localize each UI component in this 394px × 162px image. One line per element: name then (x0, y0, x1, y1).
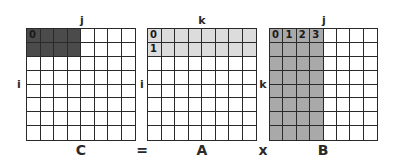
matrix-c-side-axis-label: i (17, 78, 21, 91)
matrix-cell (68, 29, 82, 43)
matrix-cell (324, 71, 337, 85)
matrix-cell (81, 126, 95, 140)
matrix-cell (216, 43, 230, 57)
matrix-cell (229, 29, 243, 43)
matrix-cell (324, 29, 337, 43)
matrix-cell (337, 57, 350, 71)
matrix-cell: 3 (310, 29, 323, 43)
matrix-cell (297, 85, 310, 99)
matrix-cell (122, 85, 136, 99)
matrix-cell (148, 126, 162, 140)
matrix-cell (122, 98, 136, 112)
matrix-cell (68, 126, 82, 140)
matrix-cell (337, 29, 350, 43)
matrix-cell (108, 29, 122, 43)
matrix-cell (54, 29, 68, 43)
matrix-cell (229, 98, 243, 112)
matrix-cell (216, 29, 230, 43)
matrix-cell (41, 71, 55, 85)
matrix-cell (202, 71, 216, 85)
matrix-cell (283, 71, 296, 85)
matrix-cell (243, 85, 257, 99)
matrix-cell (81, 43, 95, 57)
matrix-b-top-axis-label: j (322, 14, 326, 27)
matrix-c-name: C (76, 142, 86, 158)
matrix-cell (202, 57, 216, 71)
matrix-cell (95, 43, 109, 57)
matrix-cell (324, 98, 337, 112)
matrix-cell: 1 (148, 43, 162, 57)
matrix-cell (175, 112, 189, 126)
matrix-cell (81, 57, 95, 71)
matrix-cell (202, 112, 216, 126)
matrix-cell (216, 85, 230, 99)
matrix-cell (324, 57, 337, 71)
matrix-cell (122, 29, 136, 43)
matrix-cell (189, 57, 203, 71)
matrix-cell (81, 98, 95, 112)
matrix-cell (108, 98, 122, 112)
matrix-cell (310, 98, 323, 112)
matrix-cell (175, 98, 189, 112)
matrix-cell (270, 126, 283, 140)
matrix-cell (108, 112, 122, 126)
matrix-cell (229, 71, 243, 85)
matrix-cell (95, 85, 109, 99)
matrix-cell (95, 71, 109, 85)
matrix-cell (189, 43, 203, 57)
matrix-cell (297, 112, 310, 126)
matrix-cell (108, 43, 122, 57)
matrix-cell (189, 85, 203, 99)
matrix-cell (54, 43, 68, 57)
matrix-cell: 2 (297, 29, 310, 43)
matrix-cell (41, 112, 55, 126)
matrix-cell (324, 43, 337, 57)
matrix-cell: 0 (148, 29, 162, 43)
matrix-cell (350, 43, 363, 57)
matrix-cell (122, 71, 136, 85)
matrix-cell (337, 71, 350, 85)
matrix-cell (41, 85, 55, 99)
matrix-cell (162, 43, 176, 57)
matrix-cell (350, 57, 363, 71)
matrix-cell (81, 71, 95, 85)
matrix-cell (95, 29, 109, 43)
matrix-cell: 0 (270, 29, 283, 43)
matrix-cell (54, 71, 68, 85)
matrix-cell (162, 112, 176, 126)
matrix-cell (350, 98, 363, 112)
matrix-cell (216, 71, 230, 85)
matrix-cell (175, 29, 189, 43)
matrix-cell (364, 43, 377, 57)
matrix-cell (243, 126, 257, 140)
matrix-cell (122, 57, 136, 71)
matrix-cell (243, 71, 257, 85)
matrix-cell (243, 98, 257, 112)
matrix-cell (27, 85, 41, 99)
matrix-cell (162, 85, 176, 99)
matrix-cell (54, 112, 68, 126)
matrix-cell (364, 57, 377, 71)
matrix-cell (216, 57, 230, 71)
matrix-cell (297, 57, 310, 71)
matrix-cell (148, 57, 162, 71)
matrix-cell (310, 71, 323, 85)
matrix-cell (54, 98, 68, 112)
matrix-cell (229, 112, 243, 126)
matrix-cell (122, 43, 136, 57)
matrix-cell (175, 57, 189, 71)
matrix-cell (364, 71, 377, 85)
matrix-cell (202, 126, 216, 140)
matrix-cell (310, 85, 323, 99)
matrix-cell (122, 126, 136, 140)
matrix-cell (216, 126, 230, 140)
matrix-a-grid: 01 (147, 28, 257, 141)
matrix-cell (148, 112, 162, 126)
matrix-cell (283, 43, 296, 57)
matrix-cell (364, 126, 377, 140)
matrix-cell (229, 57, 243, 71)
matrix-cell (283, 98, 296, 112)
matrix-cell (270, 57, 283, 71)
matrix-cell (68, 57, 82, 71)
matrix-cell (337, 98, 350, 112)
